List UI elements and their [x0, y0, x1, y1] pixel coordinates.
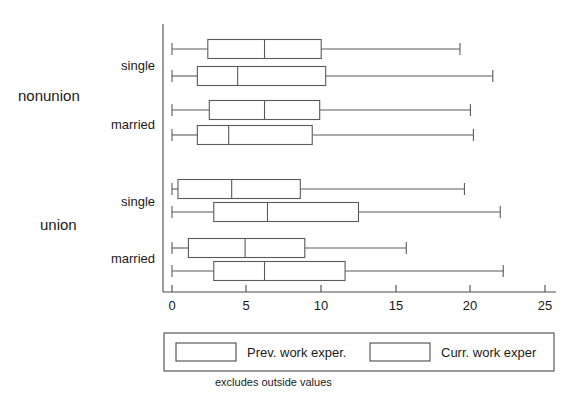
boxplot-figure: 0 5 10 15 20 25 nonunion union single ma…	[0, 0, 574, 401]
legend-footnote: excludes outside values	[215, 376, 332, 388]
group-label-union: union	[40, 216, 77, 233]
boxplot-row-nonunion-married-prev	[172, 101, 470, 120]
boxplot-series-layer	[172, 40, 503, 281]
box-nonunion-single-curr	[197, 67, 325, 86]
x-axis-tick-labels: 0 5 10 15 20 25	[168, 298, 552, 313]
category-labels: single married single married	[111, 58, 155, 266]
box-union-married-curr	[214, 262, 345, 281]
category-label-union-married: married	[111, 251, 155, 266]
box-nonunion-married-curr	[197, 126, 312, 145]
boxplot-row-nonunion-married-curr	[172, 126, 473, 145]
x-tick-label-5: 5	[242, 298, 249, 313]
box-union-married-prev	[188, 239, 304, 258]
legend-label-prev: Prev. work exper.	[247, 345, 346, 360]
x-tick-label-25: 25	[538, 298, 552, 313]
boxplot-row-nonunion-single-curr	[172, 67, 493, 86]
legend: Prev. work exper. Curr. work exper exclu…	[164, 333, 554, 388]
category-label-union-single: single	[121, 194, 155, 209]
boxplot-canvas: 0 5 10 15 20 25 nonunion union single ma…	[0, 0, 574, 401]
x-tick-label-15: 15	[389, 298, 403, 313]
category-label-nonunion-single: single	[121, 58, 155, 73]
boxplot-row-union-single-curr	[172, 203, 500, 222]
category-label-nonunion-married: married	[111, 117, 155, 132]
legend-label-curr: Curr. work exper	[441, 345, 537, 360]
x-tick-label-20: 20	[463, 298, 477, 313]
box-union-single-curr	[214, 203, 359, 222]
box-union-single-prev	[178, 180, 300, 199]
boxplot-row-union-married-prev	[172, 239, 406, 258]
legend-key-prev	[176, 343, 236, 361]
boxplot-row-nonunion-single-prev	[172, 40, 460, 59]
group-label-nonunion: nonunion	[18, 87, 80, 104]
x-tick-label-0: 0	[168, 298, 175, 313]
group-labels: nonunion union	[18, 87, 80, 233]
x-tick-label-10: 10	[314, 298, 328, 313]
legend-key-curr	[370, 343, 430, 361]
boxplot-row-union-single-prev	[172, 180, 464, 199]
boxplot-row-union-married-curr	[172, 262, 503, 281]
x-axis-ticks	[172, 285, 545, 292]
